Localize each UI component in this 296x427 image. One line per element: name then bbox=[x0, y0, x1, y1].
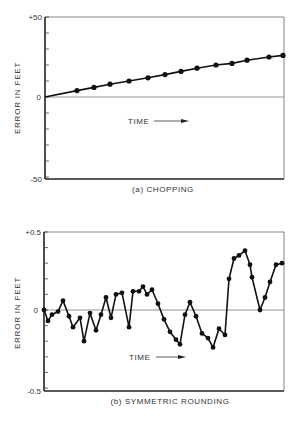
data-point bbox=[243, 248, 248, 253]
data-point bbox=[268, 280, 273, 285]
chart-chopping: +50 0 -50 ERROR IN FEET TIME (a) CHOPPIN… bbox=[13, 13, 286, 194]
data-point bbox=[78, 315, 83, 320]
data-point bbox=[168, 329, 173, 334]
y-tick-bottom: -50 bbox=[30, 175, 42, 184]
y-tick-zero: 0 bbox=[34, 306, 39, 315]
data-point bbox=[213, 62, 218, 67]
data-point bbox=[56, 309, 61, 314]
time-arrow-head-icon bbox=[178, 355, 186, 359]
y-tick-zero: 0 bbox=[37, 93, 42, 102]
data-point bbox=[183, 312, 188, 317]
y-tick-bottom: -0.5 bbox=[27, 387, 41, 396]
y-tick-top: +0.5 bbox=[25, 228, 41, 237]
data-point bbox=[109, 315, 114, 320]
data-point bbox=[126, 78, 131, 83]
data-point bbox=[266, 54, 271, 59]
data-point bbox=[200, 331, 205, 336]
y-axis-title: ERROR IN FEET bbox=[13, 62, 22, 134]
figure: +50 0 -50 ERROR IN FEET TIME (a) CHOPPIN… bbox=[0, 0, 296, 427]
data-point bbox=[178, 69, 183, 74]
data-point bbox=[46, 319, 51, 324]
data-point bbox=[227, 276, 232, 281]
data-point bbox=[280, 261, 285, 266]
data-point bbox=[61, 298, 66, 303]
data-point bbox=[99, 312, 104, 317]
data-point bbox=[82, 339, 87, 344]
data-point bbox=[91, 85, 96, 90]
data-point bbox=[42, 308, 47, 313]
time-label: TIME bbox=[128, 117, 150, 126]
y-axis-title: ERROR IN FEET bbox=[13, 277, 22, 349]
data-point bbox=[206, 336, 211, 341]
series-markers bbox=[42, 248, 285, 350]
data-point bbox=[114, 292, 119, 297]
data-point bbox=[248, 262, 253, 267]
data-point bbox=[104, 295, 109, 300]
data-point bbox=[145, 292, 150, 297]
data-point bbox=[250, 275, 255, 280]
data-point bbox=[141, 284, 146, 289]
series-line bbox=[44, 251, 282, 348]
data-point bbox=[88, 311, 93, 316]
data-point bbox=[150, 287, 155, 292]
time-arrow-head-icon bbox=[181, 119, 189, 123]
data-point bbox=[263, 295, 268, 300]
data-point bbox=[274, 262, 279, 267]
time-label: TIME bbox=[129, 353, 151, 362]
data-point bbox=[237, 253, 242, 258]
data-point bbox=[194, 66, 199, 71]
data-point bbox=[67, 314, 72, 319]
data-point bbox=[145, 75, 150, 80]
data-point bbox=[107, 82, 112, 87]
data-point bbox=[280, 53, 285, 58]
data-point bbox=[94, 328, 99, 333]
data-point bbox=[223, 333, 228, 338]
data-point bbox=[50, 312, 55, 317]
data-point bbox=[74, 88, 79, 93]
data-point bbox=[211, 345, 216, 350]
data-point bbox=[131, 289, 136, 294]
data-point bbox=[137, 289, 142, 294]
data-point bbox=[229, 61, 234, 66]
data-point bbox=[232, 256, 237, 261]
y-tick-top: +50 bbox=[28, 13, 42, 22]
data-point bbox=[217, 326, 222, 331]
chart-symmetric-rounding: +0.5 0 -0.5 ERROR IN FEET TIME (b) SYMME… bbox=[13, 228, 284, 406]
data-point bbox=[258, 308, 263, 313]
data-point bbox=[156, 301, 161, 306]
data-point bbox=[178, 342, 183, 347]
data-point bbox=[194, 314, 199, 319]
data-point bbox=[120, 290, 125, 295]
data-point bbox=[127, 325, 132, 330]
caption-b: (b) SYMMETRIC ROUNDING bbox=[111, 397, 230, 406]
data-point bbox=[244, 58, 249, 63]
data-point bbox=[162, 72, 167, 77]
data-point bbox=[162, 317, 167, 322]
data-point bbox=[174, 337, 179, 342]
data-point bbox=[188, 300, 193, 305]
data-point bbox=[71, 325, 76, 330]
caption-a: (a) CHOPPING bbox=[132, 185, 194, 194]
